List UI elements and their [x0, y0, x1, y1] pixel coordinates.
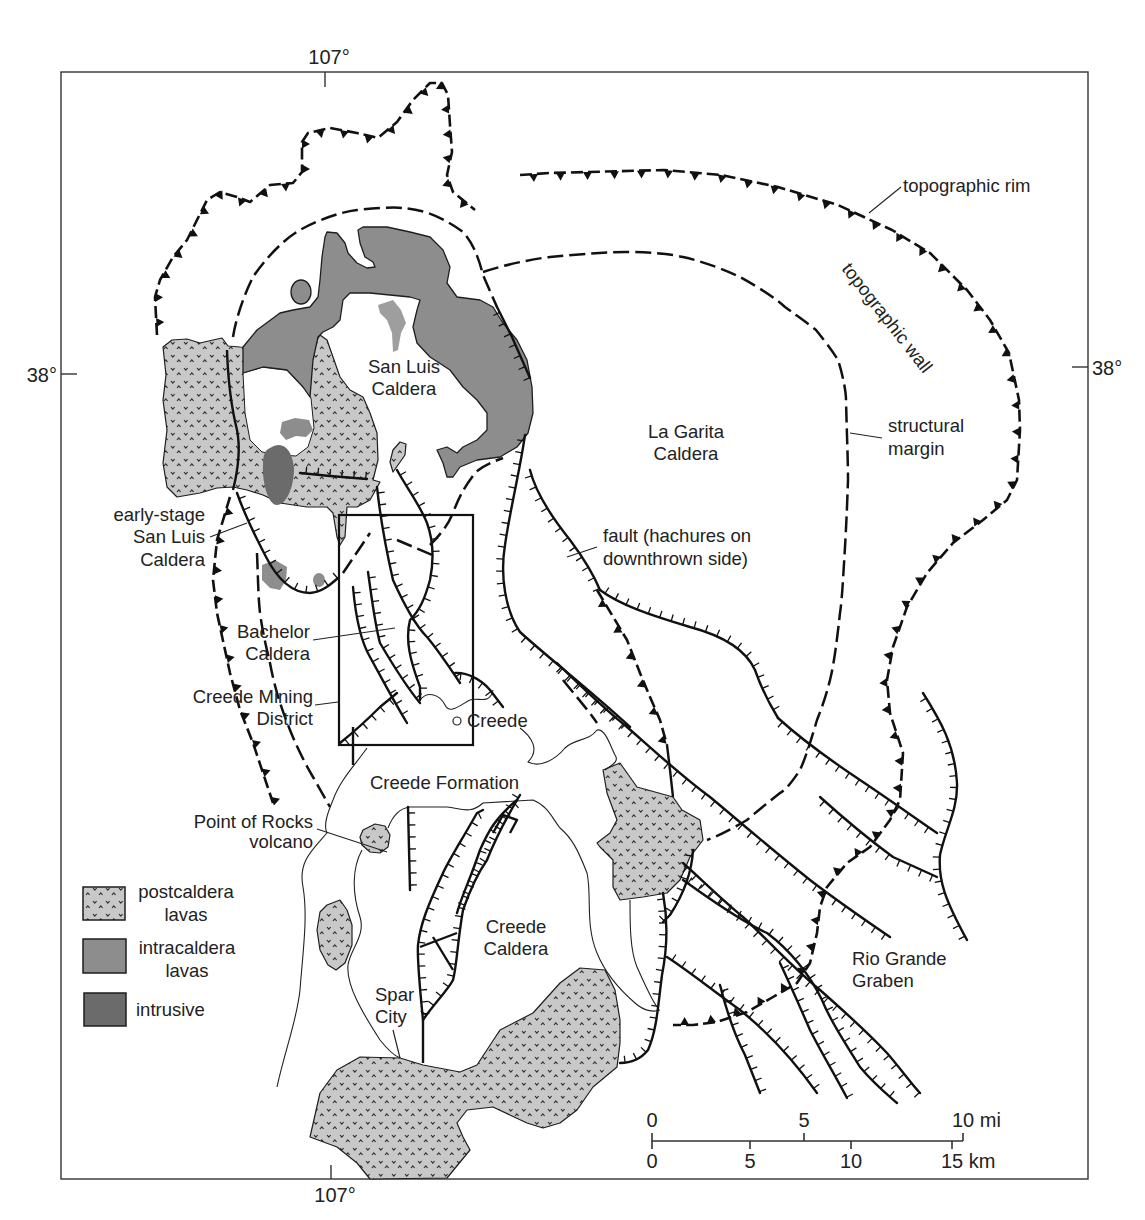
fault-b7 [455, 673, 503, 707]
intracaldera-lavas-island [291, 280, 311, 304]
topographic-rim-creede [597, 590, 667, 745]
label-topographic-wall: topographic wall [838, 259, 937, 377]
fault-hachures [400, 472, 440, 688]
legend-swatch-postcaldera [83, 887, 125, 920]
label-la-garita-caldera-2: Caldera [654, 443, 719, 464]
fault-labeled-upper [530, 470, 600, 590]
legend-swatch-intracaldera [83, 939, 126, 973]
legend-swatch-intrusive [84, 993, 126, 1026]
legend-label-postcaldera-2: lavas [164, 904, 207, 925]
longitude-label-bottom: 107° [314, 1184, 355, 1206]
structural-margin-inner [430, 458, 503, 545]
topographic-rims [155, 81, 1020, 1025]
contact-northeast [520, 728, 616, 770]
fault-b6 [340, 693, 397, 743]
fault-hachures [369, 577, 422, 698]
postcaldera-lavas-small-north [390, 442, 406, 472]
legend: postcaldera lavas intracaldera lavas int… [83, 881, 236, 1026]
leader-topographic-rim [869, 187, 901, 213]
fault-hachures [920, 698, 965, 939]
label-creede-mining-district-2: District [256, 708, 313, 729]
latitude-label-right: 38° [1092, 357, 1122, 379]
map-labels: San Luis Caldera La Garita Caldera struc… [113, 175, 1030, 1027]
label-creede-town: Creede [467, 710, 528, 731]
fault-hachures [460, 673, 498, 705]
label-spar-city-1: Spar [375, 984, 414, 1005]
label-creede-caldera-2: Caldera [484, 938, 549, 959]
latitude-label-left: 38° [27, 364, 57, 386]
longitude-label-top: 107° [308, 46, 349, 68]
fault-b2 [368, 572, 420, 703]
scale-km-5: 5 [744, 1150, 755, 1172]
label-rio-grande-graben-2: Graben [852, 970, 914, 991]
legend-label-intracaldera-1: intracaldera [139, 937, 236, 958]
label-creede-formation: Creede Formation [370, 772, 519, 793]
intracaldera-lavas-early-stage-1 [262, 560, 287, 590]
leader-early-stage [210, 523, 247, 537]
leader-creede-mining-district [315, 702, 338, 705]
caldera-map: 107° 107° 38° 38° [0, 0, 1145, 1220]
label-rio-grande-graben-1: Rio Grande [852, 948, 947, 969]
fault-c3 [423, 795, 520, 1020]
label-san-luis-caldera-2: Caldera [372, 378, 437, 399]
scale-mi-10: 10 mi [952, 1109, 1001, 1131]
fault-hachures [783, 965, 853, 1097]
label-fault-2: downthrown side) [603, 548, 748, 569]
intracaldera-lavas-early-stage-2 [313, 573, 325, 587]
label-san-luis-caldera-1: San Luis [368, 356, 440, 377]
fault-hachures [525, 476, 599, 592]
label-point-of-rocks-2: volcano [249, 831, 313, 852]
label-la-garita-caldera-1: La Garita [648, 421, 725, 442]
legend-label-postcaldera-1: postcaldera [138, 881, 234, 902]
fault-b4 [397, 470, 433, 700]
contact-inner-east [630, 900, 657, 1007]
legend-label-intracaldera-2: lavas [165, 960, 208, 981]
fault-labeled-lower [778, 718, 937, 833]
label-topographic-rim: topographic rim [903, 175, 1031, 196]
label-bachelor-caldera-1: Bachelor [237, 621, 310, 642]
scale-bar: 0 5 10 mi 0 5 10 15 km [646, 1109, 1000, 1172]
structural-margin-la-garita [483, 252, 848, 840]
label-point-of-rocks-1: Point of Rocks [194, 811, 313, 832]
label-early-stage-3: Caldera [140, 549, 205, 570]
label-fault-1: fault (hachures on [603, 525, 751, 546]
fault-c-crossbar-2 [433, 937, 453, 970]
structural-margin-box-west [343, 533, 370, 573]
label-spar-city-2: City [375, 1006, 408, 1027]
scale-mi-5: 5 [798, 1109, 809, 1131]
fault-e5 [557, 663, 890, 937]
label-structural-margin-2: margin [888, 438, 945, 459]
label-creede-mining-district-1: Creede Mining [193, 686, 313, 707]
light-lava-patch [378, 300, 406, 352]
creede-town-marker [453, 717, 461, 725]
fault-labeled-middle [600, 590, 778, 718]
scale-km-0: 0 [646, 1150, 657, 1172]
leader-structural-margin [850, 433, 882, 438]
label-early-stage-1: early-stage [113, 504, 205, 525]
postcaldera-lavas-west-small [317, 900, 352, 970]
label-early-stage-2: San Luis [133, 526, 205, 547]
scale-km-15: 15 km [941, 1150, 995, 1172]
label-creede-caldera-1: Creede [486, 916, 547, 937]
scale-mi-0: 0 [646, 1109, 657, 1131]
label-bachelor-caldera-2: Caldera [245, 643, 310, 664]
creede-rim-solid-segment [667, 745, 673, 797]
scale-bar-line [652, 1133, 963, 1149]
fault-c2 [418, 810, 483, 1020]
legend-label-intrusive: intrusive [136, 999, 205, 1020]
label-structural-margin-1: structural [888, 415, 964, 436]
rim-triangles [598, 599, 667, 744]
scale-km-10: 10 [840, 1150, 862, 1172]
leader-bachelor [313, 628, 395, 640]
fault-e7 [923, 693, 967, 940]
fault-hachures [354, 592, 408, 714]
point-of-rocks-volcano-lavas [360, 824, 390, 853]
contact-creede-district [420, 690, 493, 709]
fault-hachures [778, 722, 929, 833]
fault-creede-caldera-east [620, 893, 666, 1063]
